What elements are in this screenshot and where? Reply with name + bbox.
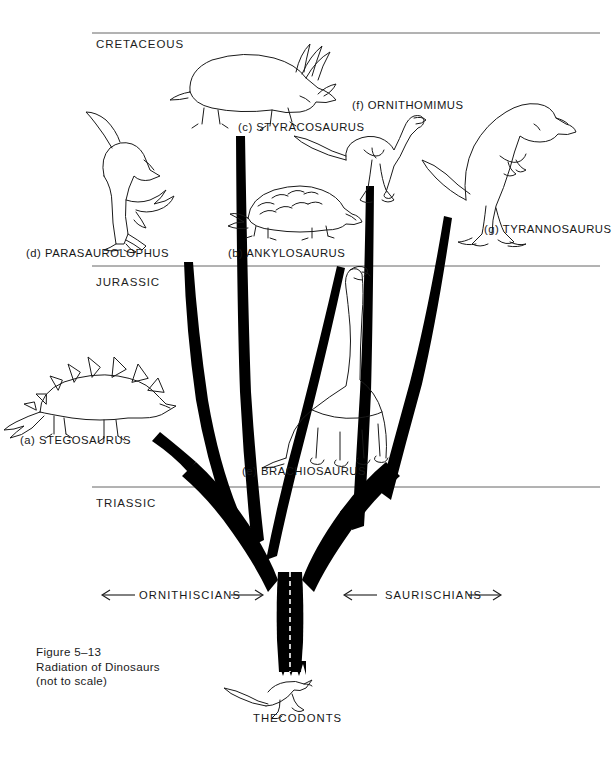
illustration-styracosaurus [170,44,336,130]
clade-label-ornithiscians: ORNITHISCIANS [139,589,241,601]
illustration-parasaurolophus [86,112,174,253]
illustration-ankylosaurus [228,186,362,240]
caption-line-number: Figure 5–13 [36,645,160,660]
period-label-triassic: TRIASSIC [96,497,156,509]
taxon-label-styracosaurus: (c) STYRACOSAURUS [238,121,365,133]
illustration-stegosaurus [4,357,176,442]
figure-caption: Figure 5–13 Radiation of Dinosaurs (not … [36,645,160,689]
taxon-label-stegosaurus: (a) STEGOSAURUS [20,434,131,446]
branch-tyrannosaurus [380,216,452,500]
taxon-label-ankylosaurus: (b) ANKYLOSAURUS [228,247,345,259]
taxon-label-parasaurolophus: (d) PARASAUROLOPHUS [26,247,169,259]
branch-ankylosaurus [266,266,345,560]
period-label-cretaceous: CRETACEOUS [96,38,184,50]
caption-line-title: Radiation of Dinosaurs [36,660,160,675]
figure-radiation-of-dinosaurs: CRETACEOUS JURASSIC TRIASSIC (a) STEGOSA… [0,0,615,765]
period-label-jurassic: JURASSIC [96,276,160,288]
clade-label-saurischians: SAURISCHIANS [385,589,482,601]
branch-stegosaurus [152,432,196,472]
trunk-root-fringe [279,661,306,676]
taxon-label-tyrannosaurus: (g) TYRANNOSAURUS [484,223,612,235]
limb-ornithiscian [182,462,278,592]
caption-line-note: (not to scale) [36,674,160,689]
taxon-label-ornithomimus: (f) ORNITHOMIMUS [352,99,464,111]
taxon-label-brachiosaurus: (e) BRACHIOSAURUS [242,465,366,477]
root-label-thecodonts: THECODONTS [253,712,342,724]
period-boundary-lines [92,33,600,487]
